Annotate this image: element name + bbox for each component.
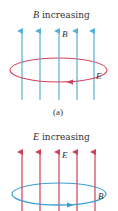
panel-b: E increasing E B <box>0 125 118 211</box>
panel-a: B increasing B E (a) <box>0 0 118 125</box>
e-field-lines <box>22 152 95 211</box>
loop-e-arrow-icon <box>66 80 73 85</box>
b-field-lines <box>22 31 94 100</box>
e-field-label: E <box>62 151 68 160</box>
b-loop-label: B <box>98 192 104 201</box>
e-loop-label: E <box>96 72 102 81</box>
loop-b-arrow-icon <box>67 203 74 208</box>
b-field-label: B <box>62 30 68 39</box>
panel-a-caption: (a) <box>53 108 63 117</box>
